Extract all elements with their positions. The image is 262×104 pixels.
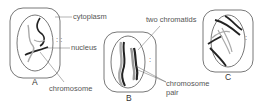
- two-chromatids-leader: [138, 26, 160, 50]
- panel-label-b: B: [126, 93, 132, 103]
- cell-a-chromosome-light: [28, 25, 34, 62]
- label-chromosome-pair-line1: chromosome: [166, 79, 209, 88]
- cell-a: : : A: [10, 8, 62, 87]
- cell-c-chromosome-3: [208, 36, 222, 44]
- cell-c-centriole: :: [245, 33, 247, 42]
- cell-b-centriole: :: [149, 55, 151, 64]
- cell-b: : B: [104, 32, 156, 103]
- cell-c-chromosome-2: [225, 16, 242, 30]
- label-chromosome-pair-line2: pair: [166, 88, 179, 97]
- panel-label-a: A: [32, 77, 38, 87]
- cell-b-chromatid-dark: [122, 42, 125, 86]
- cell-c: : C: [203, 10, 253, 82]
- cell-b-nucleus: [111, 36, 145, 88]
- label-chromosome: chromosome: [49, 84, 92, 93]
- cell-b-chromatid-light: [119, 42, 122, 86]
- cell-a-centriole: : :: [56, 35, 62, 44]
- cell-c-chromosome-4: [210, 48, 226, 66]
- panel-label-c: C: [225, 72, 231, 82]
- cell-a-nucleus: [17, 15, 53, 71]
- label-two-chromatids: two chromatids: [146, 15, 197, 24]
- cell-division-diagram: : : A cytoplasm nucleus chromosome : B t…: [0, 0, 262, 104]
- cell-b-chromatid-light-2: [131, 48, 134, 80]
- label-cytoplasm: cytoplasm: [73, 12, 107, 21]
- label-nucleus: nucleus: [71, 43, 97, 52]
- cell-a-chromosome-dark-2: [25, 47, 48, 55]
